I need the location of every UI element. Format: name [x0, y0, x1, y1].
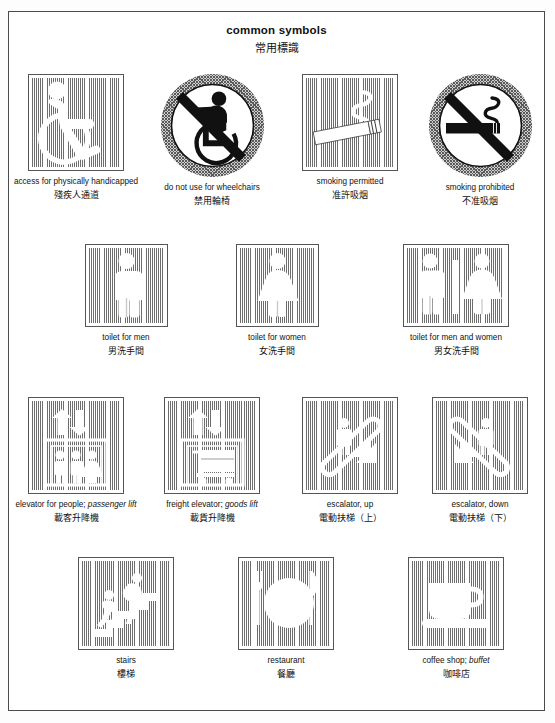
caption-english: stairs: [61, 656, 191, 666]
caption-english: escalator, up: [275, 500, 425, 510]
coffee-cup-icon: [408, 557, 504, 650]
symbol-cell-toilet-for-men[interactable]: toilet for men 男洗手間: [61, 244, 191, 357]
fork-plate-knife-icon: [238, 557, 334, 650]
title-chinese: 常用標識: [9, 39, 544, 55]
caption-chinese: 載貨升降機: [137, 512, 287, 524]
symbol-cell-toilet-for-men-and-women[interactable]: toilet for men and women 男女洗手間: [376, 244, 536, 357]
caption-english: freight elevator; goods lift: [137, 500, 287, 510]
escalator-down-icon: [432, 397, 528, 494]
caption-english: coffee shop; buffet: [386, 656, 526, 666]
symbol-cell-escalator-up[interactable]: escalator, up 電動扶梯（上）: [275, 397, 425, 524]
caption-chinese: 禁用輪椅: [137, 195, 287, 207]
caption-chinese: 男洗手間: [61, 345, 191, 357]
caption-toilet-for-women: toilet for women 女洗手間: [212, 333, 342, 357]
symbol-cell-coffee-shop[interactable]: coffee shop; buffet 咖啡店: [386, 557, 526, 680]
female-figure-icon: [236, 244, 319, 327]
caption-freight-elevator: freight elevator; goods lift 載貨升降機: [137, 500, 287, 524]
symbol-cell-restaurant[interactable]: restaurant 餐廳: [221, 557, 351, 680]
caption-smoking-prohibited: smoking prohibited 不准吸烟: [405, 183, 555, 207]
caption-escalator-down: escalator, down 電動扶梯（下）: [405, 500, 555, 524]
caption-english: toilet for men: [61, 333, 191, 343]
caption-elevator-for-people: elevator for people; passenger lift 載客升降…: [1, 500, 151, 524]
caption-access-for-physically-handicapped: access for physically handicapped 殘疾人通道: [1, 177, 151, 201]
symbol-cell-freight-elevator[interactable]: freight elevator; goods lift 載貨升降機: [137, 397, 287, 524]
caption-chinese: 樓梯: [61, 668, 191, 680]
caption-chinese: 咖啡店: [386, 668, 526, 680]
no-wheelchair-icon: [161, 74, 264, 177]
no-smoking-icon: [429, 74, 532, 177]
caption-chinese: 殘疾人通道: [1, 189, 151, 201]
symbol-cell-do-not-use-for-wheelchairs[interactable]: do not use for wheelchairs 禁用輪椅: [137, 74, 287, 207]
title-english: common symbols: [9, 24, 544, 36]
caption-coffee-shop: coffee shop; buffet 咖啡店: [386, 656, 526, 680]
caption-stairs: stairs 樓梯: [61, 656, 191, 680]
symbol-row-4: stairs 樓梯 restaurant: [9, 557, 546, 702]
symbol-cell-smoking-prohibited[interactable]: smoking prohibited 不准吸烟: [405, 74, 555, 207]
caption-chinese: 載客升降機: [1, 512, 151, 524]
symbol-cell-smoking-permitted[interactable]: smoking permitted 准許吸烟: [275, 74, 425, 201]
caption-english: elevator for people; passenger lift: [1, 500, 151, 510]
caption-english: access for physically handicapped: [1, 177, 151, 187]
caption-chinese: 准許吸烟: [275, 189, 425, 201]
caption-chinese: 電動扶梯（上）: [275, 512, 425, 524]
symbol-row-2: toilet for men 男洗手間: [9, 244, 546, 384]
symbol-cell-access-for-physically-handicapped[interactable]: access for physically handicapped 殘疾人通道: [1, 74, 151, 201]
caption-english: smoking permitted: [275, 177, 425, 187]
caption-toilet-for-men-and-women: toilet for men and women 男女洗手間: [376, 333, 536, 357]
page-title: common symbols 常用標識: [9, 24, 544, 55]
caption-toilet-for-men: toilet for men 男洗手間: [61, 333, 191, 357]
caption-do-not-use-for-wheelchairs: do not use for wheelchairs 禁用輪椅: [137, 183, 287, 207]
caption-chinese: 餐廳: [221, 668, 351, 680]
caption-english: restaurant: [221, 656, 351, 666]
escalator-up-icon: [302, 397, 398, 494]
symbol-row-3: elevator for people; passenger lift 載客升降…: [9, 397, 546, 542]
caption-escalator-up: escalator, up 電動扶梯（上）: [275, 500, 425, 524]
caption-smoking-permitted: smoking permitted 准許吸烟: [275, 177, 425, 201]
caption-chinese: 男女洗手間: [376, 345, 536, 357]
stairs-icon: [78, 557, 174, 650]
wheelchair-accessible-icon: [28, 74, 124, 171]
male-figure-icon: [85, 244, 168, 327]
caption-english: toilet for men and women: [376, 333, 536, 343]
caption-english: escalator, down: [405, 500, 555, 510]
caption-chinese: 不准吸烟: [405, 195, 555, 207]
cigarette-icon: [302, 74, 398, 171]
symbol-cell-toilet-for-women[interactable]: toilet for women 女洗手間: [212, 244, 342, 357]
symbol-chart-page: common symbols 常用標識 access for ph: [0, 0, 555, 723]
male-female-figures-icon: [403, 244, 509, 327]
caption-chinese: 電動扶梯（下）: [405, 512, 555, 524]
symbol-cell-elevator-for-people[interactable]: elevator for people; passenger lift 載客升降…: [1, 397, 151, 524]
symbol-cell-escalator-down[interactable]: escalator, down 電動扶梯（下）: [405, 397, 555, 524]
freight-elevator-icon: [164, 397, 260, 494]
caption-english: do not use for wheelchairs: [137, 183, 287, 193]
caption-english: toilet for women: [212, 333, 342, 343]
symbol-row-1: access for physically handicapped 殘疾人通道: [9, 74, 546, 229]
passenger-elevator-icon: [28, 397, 124, 494]
chart-frame: common symbols 常用標識 access for ph: [8, 11, 545, 711]
caption-english: smoking prohibited: [405, 183, 555, 193]
caption-chinese: 女洗手間: [212, 345, 342, 357]
caption-restaurant: restaurant 餐廳: [221, 656, 351, 680]
symbol-cell-stairs[interactable]: stairs 樓梯: [61, 557, 191, 680]
